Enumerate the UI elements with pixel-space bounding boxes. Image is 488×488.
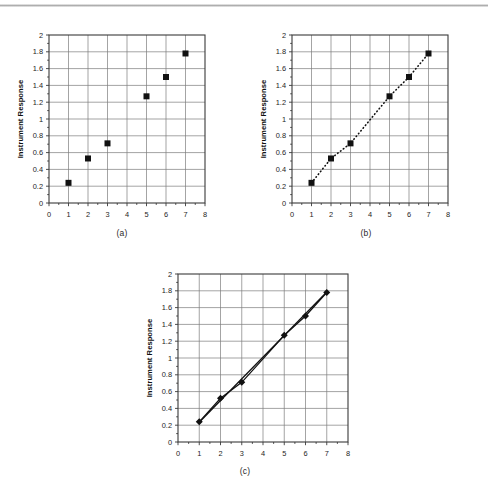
panel-caption-b: (b) — [244, 228, 488, 238]
x-tick-label: 8 — [446, 210, 450, 219]
y-tick-label: 1.2 — [276, 98, 286, 107]
y-tick-label: 0.2 — [276, 182, 286, 191]
y-tick-label: 1.8 — [162, 286, 172, 295]
x-axis: 012345678 — [290, 203, 450, 219]
plot-area-c: 00.20.40.60.811.21.41.61.82012345678Conc… — [110, 250, 380, 464]
x-axis-title: Concentration of the Standard (mg/mL) — [298, 224, 442, 226]
y-tick-label: 0 — [168, 438, 172, 447]
data-point — [66, 180, 72, 186]
data-point — [183, 50, 189, 56]
y-tick-label: 2 — [282, 31, 286, 40]
y-tick-label: 0.4 — [162, 404, 172, 413]
y-tick-label: 1.4 — [162, 320, 172, 329]
y-axis: 00.20.40.60.811.21.41.61.82 — [33, 31, 49, 208]
figure-panel-c: 00.20.40.60.811.21.41.61.82012345678Conc… — [110, 250, 380, 488]
data-point — [348, 140, 354, 146]
x-tick-label: 3 — [348, 210, 352, 219]
y-tick-label: 0.6 — [33, 148, 43, 157]
y-tick-label: 1 — [168, 354, 172, 363]
y-tick-label: 0.6 — [162, 387, 172, 396]
data-point — [144, 93, 150, 99]
x-tick-label: 3 — [240, 449, 244, 458]
x-tick-label: 7 — [325, 449, 329, 458]
x-tick-label: 3 — [105, 210, 109, 219]
figure-panel-a: 00.20.40.60.811.21.41.61.82012345678Conc… — [0, 14, 244, 246]
y-tick-label: 1.2 — [162, 337, 172, 346]
y-tick-label: 0 — [282, 199, 286, 208]
x-tick-label: 5 — [387, 210, 391, 219]
panel-caption-c: (c) — [110, 466, 380, 476]
chart-a: 00.20.40.60.811.21.41.61.82012345678Conc… — [0, 14, 244, 246]
data-point — [426, 50, 432, 56]
y-axis-title: Instrument Response — [16, 80, 25, 159]
y-tick-label: 1.8 — [33, 47, 43, 56]
y-tick-label: 0.6 — [276, 148, 286, 157]
data-point — [163, 74, 169, 80]
x-tick-label: 8 — [203, 210, 207, 219]
x-tick-label: 6 — [164, 210, 168, 219]
y-tick-label: 1.4 — [276, 81, 286, 90]
x-axis: 012345678 — [176, 442, 350, 458]
gridlines — [49, 35, 205, 203]
y-axis-title: Instrument Response — [145, 319, 154, 398]
y-axis-title: Instrument Response — [259, 80, 268, 159]
x-tick-label: 4 — [368, 210, 372, 219]
plot-area-a: 00.20.40.60.811.21.41.61.82012345678Conc… — [0, 14, 244, 226]
y-tick-label: 0.8 — [33, 131, 43, 140]
y-tick-label: 1.6 — [276, 64, 286, 73]
y-axis: 00.20.40.60.811.21.41.61.82 — [162, 270, 178, 447]
x-tick-label: 5 — [144, 210, 148, 219]
y-tick-label: 0 — [39, 199, 43, 208]
x-tick-label: 7 — [426, 210, 430, 219]
chart-b: 00.20.40.60.811.21.41.61.82012345678Conc… — [244, 14, 488, 246]
y-tick-label: 2 — [39, 31, 43, 40]
x-tick-label: 8 — [346, 449, 350, 458]
x-tick-label: 0 — [176, 449, 180, 458]
plot-area-b: 00.20.40.60.811.21.41.61.82012345678Conc… — [244, 14, 488, 226]
data-point — [328, 155, 334, 161]
x-tick-label: 4 — [125, 210, 129, 219]
y-tick-label: 0.4 — [33, 165, 43, 174]
data-point — [387, 93, 393, 99]
y-tick-label: 0.8 — [276, 131, 286, 140]
y-tick-label: 1.4 — [33, 81, 43, 90]
x-axis-title: Concentration of the Standard (mg/mL) — [191, 463, 335, 464]
y-tick-label: 1.6 — [33, 64, 43, 73]
data-point — [85, 155, 91, 161]
x-tick-label: 7 — [183, 210, 187, 219]
x-axis: 012345678 — [47, 203, 207, 219]
y-axis: 00.20.40.60.811.21.41.61.82 — [276, 31, 292, 208]
data-point — [406, 74, 412, 80]
x-tick-label: 5 — [282, 449, 286, 458]
x-tick-label: 6 — [303, 449, 307, 458]
x-tick-label: 6 — [407, 210, 411, 219]
panel-caption-a: (a) — [0, 228, 244, 238]
chart-c: 00.20.40.60.811.21.41.61.82012345678Conc… — [110, 250, 380, 488]
data-point — [105, 140, 111, 146]
x-tick-label: 1 — [66, 210, 70, 219]
x-tick-label: 1 — [197, 449, 201, 458]
x-tick-label: 4 — [261, 449, 265, 458]
y-tick-label: 2 — [168, 270, 172, 279]
page-top-rule — [0, 4, 488, 7]
y-tick-label: 1.6 — [162, 303, 172, 312]
data-point — [309, 180, 315, 186]
x-tick-label: 2 — [218, 449, 222, 458]
y-tick-label: 0.8 — [162, 370, 172, 379]
y-tick-label: 0.2 — [33, 182, 43, 191]
y-tick-label: 1 — [282, 115, 286, 124]
x-tick-label: 1 — [309, 210, 313, 219]
y-tick-label: 1.2 — [33, 98, 43, 107]
x-tick-label: 0 — [47, 210, 51, 219]
y-tick-label: 1.8 — [276, 47, 286, 56]
y-tick-label: 0.4 — [276, 165, 286, 174]
x-tick-label: 0 — [290, 210, 294, 219]
x-tick-label: 2 — [86, 210, 90, 219]
y-tick-label: 0.2 — [162, 421, 172, 430]
y-tick-label: 1 — [39, 115, 43, 124]
figure-panel-b: 00.20.40.60.811.21.41.61.82012345678Conc… — [244, 14, 488, 246]
x-tick-label: 2 — [329, 210, 333, 219]
x-axis-title: Concentration of the Standard (mg/mL) — [55, 224, 199, 226]
